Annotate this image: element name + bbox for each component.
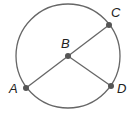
point-b bbox=[65, 53, 71, 59]
point-d bbox=[108, 83, 114, 89]
point-a bbox=[23, 85, 29, 91]
label-c: C bbox=[111, 5, 121, 20]
label-a: A bbox=[8, 81, 18, 96]
circle-diagram: A B C D bbox=[0, 0, 134, 115]
diagram-canvas: A B C D bbox=[0, 0, 134, 115]
label-d: D bbox=[117, 81, 126, 96]
label-b: B bbox=[61, 36, 70, 51]
point-c bbox=[106, 22, 112, 28]
segment-bd bbox=[68, 56, 111, 86]
